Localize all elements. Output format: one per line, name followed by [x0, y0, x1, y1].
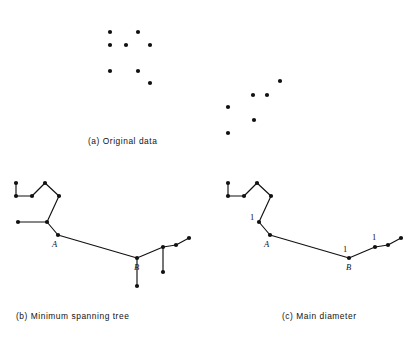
vertex-label: A — [51, 239, 58, 249]
mst-nodes — [14, 181, 191, 288]
data-point — [252, 118, 256, 122]
data-point — [136, 69, 140, 73]
diameter-vertex-labels: AB — [263, 239, 351, 272]
graph-node — [174, 243, 178, 247]
graph-node — [14, 181, 18, 185]
caption-panel-b: (b) Minimum spanning tree — [16, 311, 129, 321]
graph-node — [56, 233, 60, 237]
graph-node — [187, 236, 191, 240]
edge-weight-label: 1 — [372, 232, 376, 242]
data-point — [148, 81, 152, 85]
data-point — [124, 43, 128, 47]
figure-clustering-mst: (a) Original data AB (b) Minimum spannin… — [0, 0, 415, 349]
graph-node — [347, 256, 351, 260]
graph-edge — [32, 183, 45, 196]
graph-node — [161, 270, 165, 274]
graph-edge — [47, 222, 58, 235]
mst-vertex-labels: AB — [51, 239, 139, 272]
graph-node — [30, 194, 34, 198]
graph-edge — [259, 222, 270, 235]
graph-node — [14, 194, 18, 198]
vertex-label: B — [346, 262, 351, 272]
caption-panel-c: (c) Main diameter — [282, 311, 357, 321]
graph-edge — [47, 196, 59, 222]
data-point — [278, 79, 282, 83]
graph-node — [386, 243, 390, 247]
graph-node — [269, 194, 273, 198]
graph-node — [16, 220, 20, 224]
graph-node — [268, 233, 272, 237]
graph-node — [43, 181, 47, 185]
graph-node — [135, 284, 139, 288]
data-point — [226, 105, 230, 109]
vertex-label: A — [263, 239, 270, 249]
graph-edge — [349, 247, 375, 258]
vertex-label: B — [134, 262, 139, 272]
graph-edge — [259, 196, 271, 222]
graph-node — [257, 220, 261, 224]
data-point — [108, 69, 112, 73]
data-point — [148, 43, 152, 47]
data-point — [251, 93, 255, 97]
graph-edge — [257, 183, 271, 196]
graph-node — [135, 256, 139, 260]
graph-edge — [45, 183, 59, 196]
graph-edge — [176, 238, 189, 245]
graph-node — [45, 220, 49, 224]
graph-node — [226, 194, 230, 198]
graph-edge — [137, 247, 163, 258]
graph-node — [399, 236, 403, 240]
point-cluster-left — [108, 30, 152, 85]
graph-edge — [270, 235, 349, 258]
graph-node — [161, 245, 165, 249]
data-point — [108, 43, 112, 47]
data-point — [136, 30, 140, 34]
graph-edge — [244, 183, 257, 196]
graph-node — [373, 245, 377, 249]
graph-edge — [58, 235, 137, 258]
edge-weight-label: 1 — [250, 212, 254, 222]
edge-weight-label: 1 — [343, 244, 347, 254]
data-point — [108, 30, 112, 34]
data-point — [265, 93, 269, 97]
caption-panel-a: (a) Original data — [88, 136, 157, 146]
graph-node — [242, 194, 246, 198]
graph-edge — [388, 238, 401, 245]
graph-node — [226, 181, 230, 185]
graph-node — [57, 194, 61, 198]
point-cluster-right — [226, 79, 282, 135]
panel-a-original-data — [0, 0, 415, 150]
graph-node — [255, 181, 259, 185]
data-point — [226, 131, 230, 135]
